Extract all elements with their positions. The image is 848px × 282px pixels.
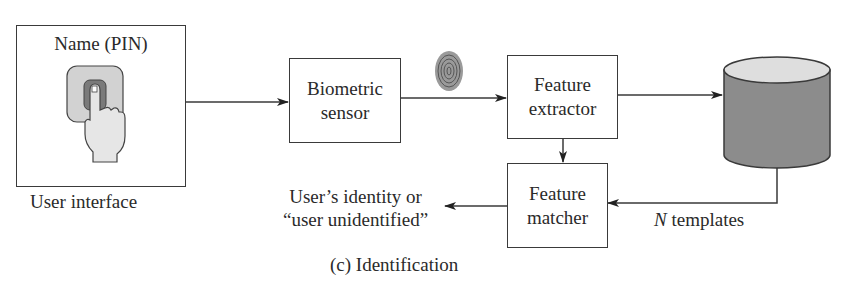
biometric-sensor-label-line1: Biometric [307,77,383,101]
feature-extractor-box: Feature extractor [507,55,618,139]
n-variable: N [654,209,667,230]
feature-matcher-label-line2: matcher [527,206,588,230]
feature-matcher-label-line1: Feature [529,182,586,206]
feature-matcher-box: Feature matcher [507,163,608,248]
output-line1: User’s identity or [283,185,428,208]
fingerprint-icon [435,51,463,91]
n-templates-label: N templates [654,209,744,231]
biometric-sensor-box: Biometric sensor [289,58,401,143]
feature-extractor-label-line1: Feature [534,73,591,97]
database-cylinder-icon [724,57,830,168]
name-pin-label: Name (PIN) [54,32,147,56]
templates-text: templates [667,209,745,230]
output-line2: “user unidentified” [283,208,428,231]
output-identity-text: User’s identity or “user unidentified” [283,185,428,231]
finger-press-icon [61,64,141,164]
feature-extractor-label-line2: extractor [529,97,597,121]
user-interface-label: User interface [30,191,137,213]
user-interface-box: Name (PIN) [16,25,186,187]
figure-caption: (c) Identification [330,254,458,276]
biometric-sensor-label-line2: sensor [321,101,370,125]
